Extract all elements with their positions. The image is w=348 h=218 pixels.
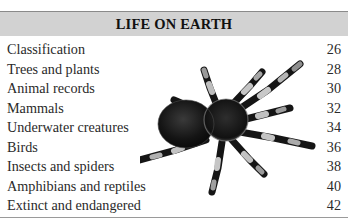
- toc-entry-page: 26: [327, 40, 341, 60]
- toc-entry-label: Mammals: [7, 99, 64, 119]
- toc-entry-page: 28: [327, 60, 341, 80]
- toc-entry-underwater-creatures[interactable]: Underwater creatures 34: [0, 118, 348, 138]
- toc-header: LIFE ON EARTH: [0, 12, 348, 36]
- toc-entry-label: Insects and spiders: [7, 157, 114, 177]
- toc-entry-label: Amphibians and reptiles: [7, 177, 146, 197]
- toc-entry-label: Underwater creatures: [7, 118, 129, 138]
- toc-entry-page: 34: [327, 118, 341, 138]
- toc-entry-mammals[interactable]: Mammals 32: [0, 99, 348, 119]
- toc-title: LIFE ON EARTH: [116, 12, 233, 36]
- toc-entry-animal-records[interactable]: Animal records 30: [0, 79, 348, 99]
- toc-entry-label: Birds: [7, 138, 38, 158]
- toc-list: Classification 26 Trees and plants 28 An…: [0, 40, 348, 216]
- toc-entry-page: 32: [327, 99, 341, 119]
- toc-entry-page: 36: [327, 138, 341, 158]
- toc-entry-label: Trees and plants: [7, 60, 99, 80]
- toc-entry-insects-and-spiders[interactable]: Insects and spiders 38: [0, 157, 348, 177]
- toc-entry-page: 30: [327, 79, 341, 99]
- toc-entry-birds[interactable]: Birds 36: [0, 138, 348, 158]
- toc-entry-page: 38: [327, 157, 341, 177]
- toc-entry-trees-and-plants[interactable]: Trees and plants 28: [0, 60, 348, 80]
- table-of-contents: LIFE ON EARTH Classification 26 Trees an…: [0, 11, 348, 218]
- toc-entry-page: 40: [327, 177, 341, 197]
- toc-entry-classification[interactable]: Classification 26: [0, 40, 348, 60]
- toc-entry-amphibians-and-reptiles[interactable]: Amphibians and reptiles 40: [0, 177, 348, 197]
- toc-entry-page: 42: [327, 196, 341, 216]
- toc-entry-label: Extinct and endangered: [7, 196, 141, 216]
- toc-entry-extinct-and-endangered[interactable]: Extinct and endangered 42: [0, 196, 348, 216]
- toc-entry-label: Classification: [7, 40, 85, 60]
- toc-entry-label: Animal records: [7, 79, 95, 99]
